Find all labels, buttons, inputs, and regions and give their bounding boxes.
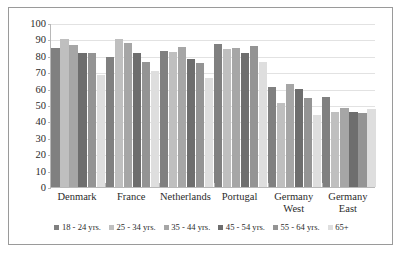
y-tick-label: 10 [36,166,47,177]
y-tick-label: 0 [41,183,46,194]
bar [106,57,114,187]
bar [340,108,348,187]
legend-item[interactable]: 45 - 54 yrs. [218,223,265,232]
plot-area: 0102030405060708090100 [50,24,375,188]
legend-item[interactable]: 55 - 64 yrs. [273,223,320,232]
legend-item[interactable]: 18 - 24 yrs. [54,223,101,232]
bar [268,87,276,187]
bar [160,51,168,187]
y-tick-mark [48,188,51,189]
legend-label: 55 - 64 yrs. [281,223,320,232]
bar [295,89,303,187]
y-tick-label: 80 [36,52,47,63]
legend-label: 65+ [335,223,348,232]
bar [232,48,240,187]
category-separator [268,183,269,187]
y-tick-label: 30 [36,134,47,145]
bar [358,113,366,187]
bar [205,78,213,187]
bar [349,112,357,187]
x-tick-label: France [104,191,158,203]
bar-group [214,24,268,187]
legend-label: 18 - 24 yrs. [62,223,101,232]
y-tick-label: 50 [36,101,47,112]
y-tick-label: 100 [30,19,46,30]
y-tick-label: 90 [36,35,47,46]
legend-label: 35 - 44 yrs. [171,223,210,232]
bar [115,39,123,187]
bar [51,48,59,187]
legend-swatch-icon [328,225,333,230]
bar [313,115,321,187]
legend-label: 25 - 34 yrs. [117,223,156,232]
bar [331,112,339,187]
x-tick-label: Germany East [321,191,375,215]
category-separator [159,183,160,187]
category-separator [322,183,323,187]
legend-swatch-icon [273,225,278,230]
x-axis-labels: DenmarkFranceNetherlandsPortugalGermany … [50,191,375,223]
bar [69,45,77,187]
bar [60,39,68,187]
bar [322,97,330,187]
bar [78,53,86,187]
bar [169,52,177,187]
legend-label: 45 - 54 yrs. [226,223,265,232]
bar-group [105,24,159,187]
bar [223,49,231,187]
bar [124,43,132,187]
bar [88,53,96,187]
bar [259,62,267,187]
bar [277,103,285,187]
x-tick-label: Germany West [267,191,321,215]
bar-group [159,24,213,187]
bar-group [268,24,322,187]
x-tick-label: Netherlands [158,191,212,203]
legend-item[interactable]: 65+ [328,223,349,232]
bar [286,84,294,187]
x-tick-label: Denmark [50,191,104,203]
bar [151,71,159,187]
bar-group [51,24,105,187]
bar [97,75,105,187]
bar [304,98,312,187]
legend-swatch-icon [109,225,114,230]
bar [187,59,195,187]
bar [241,53,249,187]
legend-item[interactable]: 25 - 34 yrs. [109,223,156,232]
x-tick-label: Portugal [213,191,267,203]
y-tick-label: 40 [36,117,47,128]
legend-swatch-icon [164,225,169,230]
y-tick-label: 20 [36,150,47,161]
category-separator [105,183,106,187]
chart-figure: 0102030405060708090100 DenmarkFranceNeth… [8,7,393,245]
chart-legend: 18 - 24 yrs.25 - 34 yrs.35 - 44 yrs.45 -… [9,223,394,232]
category-separator [214,183,215,187]
bar [214,44,222,188]
bars-layer [51,24,375,187]
bar [367,109,375,187]
bar [142,62,150,187]
legend-swatch-icon [218,225,223,230]
bar [196,63,204,187]
legend-swatch-icon [54,225,59,230]
y-tick-label: 70 [36,68,47,79]
legend-item[interactable]: 35 - 44 yrs. [164,223,211,232]
bar [178,47,186,187]
y-tick-label: 60 [36,84,47,95]
bar-group [322,24,376,187]
bar [250,46,258,187]
bar [133,53,141,187]
